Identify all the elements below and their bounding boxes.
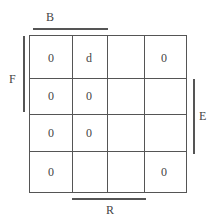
grid-hline (30, 151, 186, 152)
label-b: B (46, 11, 54, 23)
cell: 0 (146, 40, 182, 76)
bar-e (193, 79, 195, 154)
cell (146, 115, 182, 151)
cell: 0 (33, 115, 69, 151)
label-e: E (199, 110, 206, 122)
bar-b (33, 28, 108, 30)
bar-f (23, 36, 25, 112)
cell: d (71, 40, 107, 76)
cell: 0 (146, 154, 182, 190)
label-f: F (9, 73, 16, 85)
cell: 0 (71, 115, 107, 151)
label-r: R (106, 204, 114, 215)
cell: 0 (33, 40, 69, 76)
cell (146, 78, 182, 114)
cell: 0 (33, 154, 69, 190)
bar-r (72, 198, 146, 200)
kmap-grid: 0 d 0 0 0 0 0 0 0 (29, 35, 187, 193)
cell: 0 (33, 78, 69, 114)
cell (107, 78, 143, 114)
cell (71, 154, 107, 190)
cell (107, 154, 143, 190)
cell: 0 (71, 78, 107, 114)
cell (107, 115, 143, 151)
cell (107, 40, 143, 76)
